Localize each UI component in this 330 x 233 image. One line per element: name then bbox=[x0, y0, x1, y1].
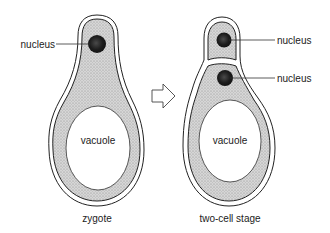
two-cell-embryo bbox=[183, 17, 275, 206]
basal-nucleus-label: nucleus bbox=[277, 73, 311, 84]
zygote-cell bbox=[49, 15, 144, 206]
zygote-vacuole bbox=[66, 106, 130, 190]
zygote-caption: zygote bbox=[82, 213, 112, 224]
diagram-canvas: nucleus vacuole zygote nucleus nucleus v… bbox=[0, 0, 330, 233]
two-cell-caption: two-cell stage bbox=[199, 213, 261, 224]
zygote-nucleus-label: nucleus bbox=[21, 39, 55, 50]
zygote-nucleus bbox=[88, 35, 106, 53]
apical-nucleus-label: nucleus bbox=[277, 35, 311, 46]
arrow-right-icon bbox=[152, 84, 175, 108]
two-cell-vacuole-label: vacuole bbox=[213, 135, 248, 146]
zygote-vacuole-label: vacuole bbox=[81, 135, 116, 146]
